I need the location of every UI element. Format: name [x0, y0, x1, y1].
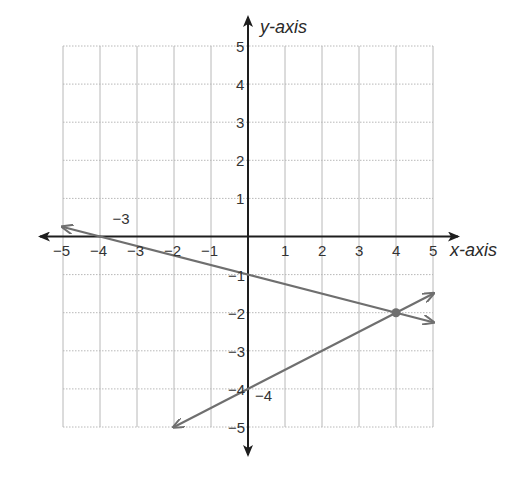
x-tick-label: 2 [318, 242, 326, 259]
intersection-point [392, 308, 401, 317]
x-tick-label: 4 [392, 242, 400, 259]
y-tick-label: 2 [236, 152, 244, 169]
coordinate-plane: −5−4−3−2−11234554321−1−2−3−4−5−3−4 y-axi… [0, 0, 524, 482]
y-tick-label: 4 [236, 76, 244, 93]
x-tick-label: 5 [429, 242, 437, 259]
y-tick-label: −4 [228, 381, 245, 398]
x-tick-label: 1 [281, 242, 289, 259]
x-tick-label: −1 [201, 242, 218, 259]
y-axis-title: y-axis [258, 17, 307, 37]
annotation-label: −3 [113, 210, 130, 227]
annotation-label: −4 [255, 387, 272, 404]
y-tick-label: −2 [228, 305, 245, 322]
x-tick-label: −4 [90, 242, 107, 259]
y-tick-label: −5 [228, 419, 245, 436]
x-tick-label: 3 [355, 242, 363, 259]
y-tick-label: 5 [236, 38, 244, 55]
x-tick-label: −2 [164, 242, 181, 259]
y-tick-label: −1 [228, 267, 245, 284]
y-tick-label: 3 [236, 114, 244, 131]
y-tick-label: 1 [236, 190, 244, 207]
x-tick-label: −3 [127, 242, 144, 259]
x-axis-title: x-axis [449, 240, 497, 260]
x-tick-label: −5 [53, 242, 70, 259]
y-tick-label: −3 [228, 343, 245, 360]
